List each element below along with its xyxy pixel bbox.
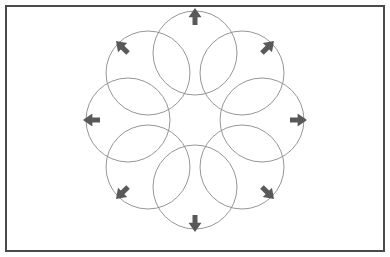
diagram-canvas bbox=[0, 0, 390, 257]
figure-root bbox=[0, 0, 390, 257]
